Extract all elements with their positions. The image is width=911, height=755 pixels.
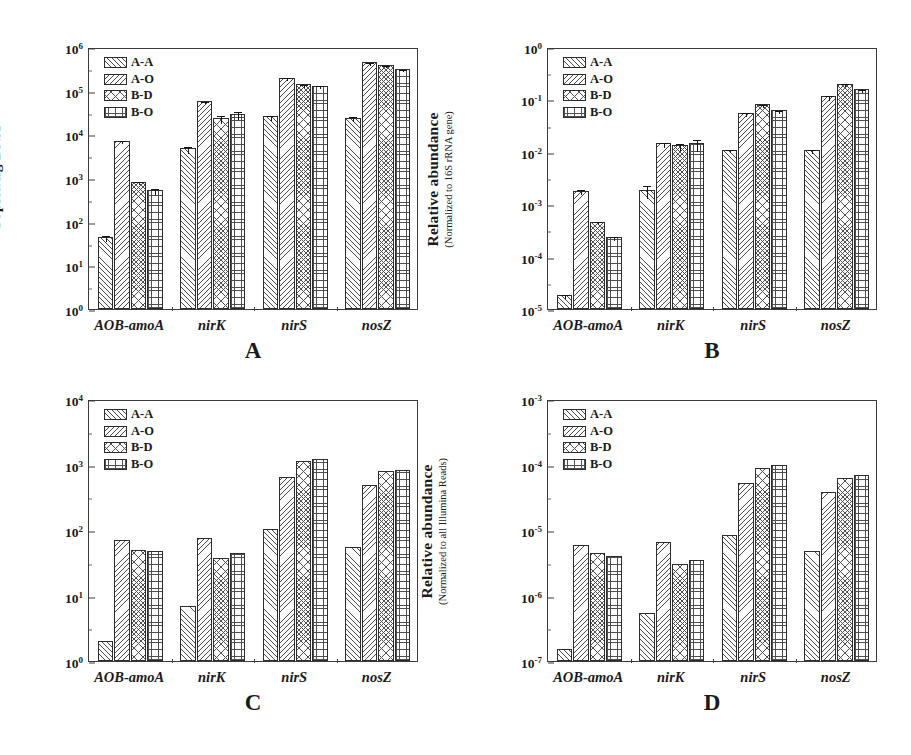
y-tick-label: 10-2 bbox=[521, 146, 542, 161]
x-tick-mark bbox=[631, 659, 632, 663]
legend-item-B-D: B-D bbox=[563, 441, 613, 454]
bar-C-nirK-A-A bbox=[180, 606, 196, 661]
error-bar-cap-top bbox=[102, 236, 110, 237]
legend-item-A-A: A-A bbox=[563, 408, 613, 421]
y-tick-label: 104 bbox=[65, 129, 83, 144]
x-axis-label-nosZ: nosZ bbox=[362, 669, 392, 686]
x-axis-label-nirS: nirS bbox=[281, 669, 307, 686]
error-bar-cap-top bbox=[184, 147, 192, 148]
y-tick-label: 103 bbox=[65, 459, 83, 474]
legend-label-A-O: A-O bbox=[590, 425, 613, 438]
y-tick-minor bbox=[548, 564, 551, 565]
error-bar-cap-top bbox=[201, 102, 209, 103]
y-tick-minor bbox=[548, 180, 551, 181]
legend-label-B-O: B-O bbox=[590, 458, 612, 471]
error-bar-cap-top bbox=[841, 84, 849, 85]
y-tick-mark bbox=[89, 466, 95, 467]
y-tick-mark bbox=[89, 223, 95, 224]
bar-B-nirS-A-O bbox=[738, 113, 754, 309]
error-bar-cap-top bbox=[676, 144, 684, 145]
y-tick-minor bbox=[89, 499, 92, 500]
bar-B-AOB-amoA-A-O bbox=[573, 191, 589, 309]
bar-A-nirK-A-O bbox=[197, 101, 213, 309]
legend-label-A-O: A-O bbox=[131, 425, 154, 438]
error-bar-cap-top bbox=[858, 90, 866, 91]
bar-D-nosZ-B-D bbox=[837, 478, 853, 661]
x-axis-label-nirS: nirS bbox=[740, 317, 766, 334]
legend-label-A-A: A-A bbox=[131, 408, 153, 421]
error-bar bbox=[697, 140, 698, 151]
y-axis-label-wrap: Relative abundance(Normalized to 16S rRN… bbox=[455, 48, 507, 310]
y-tick-label: 10-6 bbox=[521, 590, 542, 605]
y-tick-label: 100 bbox=[65, 304, 83, 319]
y-tick-mark bbox=[548, 153, 554, 154]
bar-B-nirS-A-A bbox=[722, 150, 738, 309]
y-tick-label: 106 bbox=[65, 42, 83, 57]
x-axis-label-nirK: nirK bbox=[657, 669, 684, 686]
legend-swatch-A-A bbox=[563, 57, 586, 68]
error-bar-cap-top bbox=[577, 190, 585, 191]
y-tick-label: 102 bbox=[65, 216, 83, 231]
bar-D-nirK-A-A bbox=[639, 613, 655, 661]
legend-label-B-D: B-D bbox=[131, 441, 153, 454]
y-tick-label: 101 bbox=[65, 590, 83, 605]
legend-swatch-A-O bbox=[563, 74, 586, 85]
error-bar-cap-top bbox=[594, 222, 602, 223]
y-tick-label: 10-7 bbox=[521, 656, 542, 671]
y-axis-label-main: Copies/ng DNA bbox=[0, 126, 4, 232]
bar-B-nirK-A-A bbox=[639, 190, 655, 309]
legend-swatch-B-O bbox=[563, 107, 586, 118]
bar-B-nirS-B-D bbox=[755, 104, 771, 309]
bar-B-nosZ-A-O bbox=[821, 96, 837, 309]
y-tick-mark bbox=[89, 92, 95, 93]
y-tick-minor bbox=[89, 114, 92, 115]
error-bar-cap-top bbox=[217, 116, 225, 117]
bar-D-nosZ-A-O bbox=[821, 492, 837, 661]
bar-A-nirS-B-O bbox=[312, 86, 328, 309]
error-bar-cap-top bbox=[561, 295, 569, 296]
legend-swatch-A-A bbox=[563, 409, 586, 420]
bar-D-nirK-B-O bbox=[689, 560, 705, 661]
legend-swatch-A-A bbox=[104, 409, 127, 420]
bar-A-nosZ-A-A bbox=[345, 118, 361, 309]
y-tick-minor bbox=[548, 232, 551, 233]
panel-D: Relative abundance(Normalized to all Ill… bbox=[455, 372, 911, 755]
y-tick-label: 100 bbox=[65, 656, 83, 671]
y-tick-label: 100 bbox=[524, 42, 542, 57]
error-bar-cap-top bbox=[610, 237, 618, 238]
error-bar-cap-top bbox=[726, 150, 734, 151]
error-bar bbox=[221, 116, 222, 123]
bar-A-nosZ-B-O bbox=[395, 69, 411, 309]
error-bar bbox=[680, 144, 681, 151]
bar-A-AOB-amoA-B-D bbox=[131, 182, 147, 309]
error-bar-cap-top bbox=[759, 105, 767, 106]
x-axis-label-AOB-amoA: AOB-amoA bbox=[94, 317, 164, 334]
y-tick-mark bbox=[89, 49, 95, 50]
y-axis-label-sub: (Normalized to 16S rRNA gene) bbox=[442, 111, 454, 247]
y-tick-minor bbox=[548, 630, 551, 631]
x-tick-mark bbox=[796, 659, 797, 663]
y-tick-mark bbox=[548, 532, 554, 533]
bar-D-nosZ-A-A bbox=[804, 551, 820, 661]
bar-B-nosZ-B-D bbox=[837, 84, 853, 309]
x-tick-mark bbox=[713, 659, 714, 663]
y-tick-minor bbox=[548, 499, 551, 500]
y-axis-label-sub: (Normalized to all Illumina Reads) bbox=[437, 458, 449, 605]
bar-C-nosZ-A-A bbox=[345, 547, 361, 661]
y-tick-mark bbox=[89, 136, 95, 137]
error-bar-cap-top bbox=[382, 66, 390, 67]
legend-B: A-AA-OB-DB-O bbox=[563, 56, 613, 122]
bar-C-nosZ-B-O bbox=[395, 470, 411, 661]
error-bar bbox=[238, 112, 239, 120]
y-tick-mark bbox=[548, 49, 554, 50]
y-tick-mark bbox=[89, 267, 95, 268]
error-bar-cap-top bbox=[808, 150, 816, 151]
panel-letter-A: A bbox=[245, 338, 262, 364]
x-axis-label-AOB-amoA: AOB-amoA bbox=[94, 669, 164, 686]
bar-D-AOB-amoA-B-D bbox=[590, 553, 606, 661]
y-tick-mark bbox=[548, 311, 554, 312]
bar-D-nirK-A-O bbox=[656, 542, 672, 661]
x-axis-label-AOB-amoA: AOB-amoA bbox=[553, 669, 623, 686]
bar-C-nirS-A-A bbox=[263, 529, 279, 661]
legend-C: A-AA-OB-DB-O bbox=[104, 408, 154, 474]
